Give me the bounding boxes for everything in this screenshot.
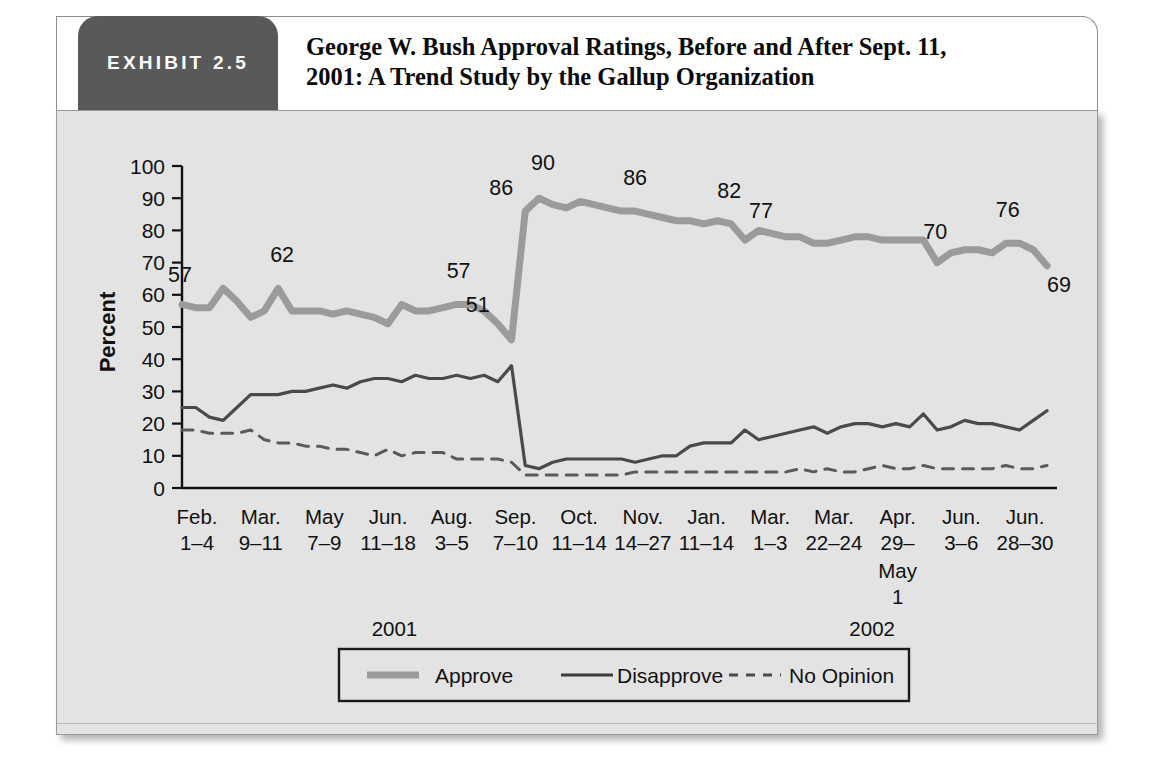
exhibit-title-line-1: George W. Bush Approval Ratings, Before … bbox=[306, 32, 1076, 62]
x-tick-days: 7–10 bbox=[493, 531, 539, 554]
exhibit-title: George W. Bush Approval Ratings, Before … bbox=[306, 32, 1076, 92]
panel-divider-rule bbox=[57, 723, 1099, 724]
x-axis-tick-labels: Feb.1–4Mar.9–11May7–9Jun.11–18Aug.3–5Sep… bbox=[176, 505, 1053, 608]
x-tick-month: Jun. bbox=[369, 505, 408, 528]
data-point-labels: 576257518690868277707669 bbox=[168, 151, 1071, 317]
legend-label: Approve bbox=[435, 664, 513, 687]
x-tick-month: Apr. bbox=[879, 505, 915, 528]
y-tick-label: 70 bbox=[142, 251, 165, 274]
x-tick-days: 9–11 bbox=[239, 531, 283, 554]
y-tick-label: 50 bbox=[142, 316, 165, 339]
x-tick-days: 11–14 bbox=[679, 531, 734, 554]
y-tick-label: 60 bbox=[142, 283, 165, 306]
data-point-label: 90 bbox=[531, 151, 555, 175]
data-point-label: 69 bbox=[1047, 273, 1071, 297]
y-tick-label: 30 bbox=[142, 380, 165, 403]
series-line-disapprove bbox=[182, 366, 1047, 469]
chart-panel: 0102030405060708090100 Percent 576257518… bbox=[56, 110, 1098, 735]
chart-series bbox=[182, 198, 1047, 475]
x-tick-month: May bbox=[305, 505, 344, 528]
legend-label: No Opinion bbox=[789, 664, 894, 687]
y-tick-label: 40 bbox=[142, 348, 165, 371]
plot-area: 0102030405060708090100 Percent 576257518… bbox=[57, 111, 1099, 736]
exhibit-title-line-2: 2001: A Trend Study by the Gallup Organi… bbox=[306, 62, 1076, 92]
y-tick-label: 0 bbox=[153, 477, 165, 500]
x-tick-month: Aug. bbox=[431, 505, 473, 528]
x-tick-days: 22–24 bbox=[805, 531, 862, 554]
data-point-label: 76 bbox=[996, 198, 1020, 222]
exhibit-header: EXHIBIT 2.5 George W. Bush Approval Rati… bbox=[56, 16, 1098, 110]
legend-label: Disapprove bbox=[617, 664, 723, 687]
x-tick-month: Feb. bbox=[176, 505, 217, 528]
x-tick-month: Mar. bbox=[814, 505, 854, 528]
x-tick-days: 11–14 bbox=[551, 531, 606, 554]
x-tick-days: 3–6 bbox=[944, 531, 978, 554]
chart-legend: ApproveDisapproveNo Opinion bbox=[339, 649, 909, 701]
x-tick-days-cont: 1 bbox=[892, 585, 903, 608]
series-line-approve bbox=[182, 198, 1047, 340]
x-axis-year-label: 2002 bbox=[849, 617, 895, 640]
x-tick-days: 1–4 bbox=[180, 531, 214, 554]
data-point-label: 51 bbox=[466, 293, 490, 317]
x-tick-month: Jan. bbox=[687, 505, 726, 528]
y-axis-title: Percent bbox=[95, 291, 120, 372]
x-tick-days: 29– bbox=[881, 531, 916, 554]
y-tick-label: 80 bbox=[142, 219, 165, 242]
x-tick-month: Mar. bbox=[241, 505, 281, 528]
y-tick-label: 90 bbox=[142, 187, 165, 210]
series-line-no-opinion bbox=[182, 430, 1047, 475]
x-tick-days: 11–18 bbox=[360, 531, 415, 554]
x-tick-month: Sep. bbox=[494, 505, 536, 528]
data-point-label: 77 bbox=[749, 199, 773, 223]
exhibit-badge: EXHIBIT 2.5 bbox=[78, 16, 278, 110]
data-point-label: 86 bbox=[489, 176, 513, 200]
x-tick-days: 28–30 bbox=[996, 531, 1053, 554]
data-point-label: 70 bbox=[923, 220, 947, 244]
x-tick-days: 7–9 bbox=[307, 531, 341, 554]
x-tick-month: Mar. bbox=[750, 505, 790, 528]
trend-line-chart: 0102030405060708090100 Percent 576257518… bbox=[57, 111, 1099, 736]
x-tick-month: Jun. bbox=[1006, 505, 1045, 528]
x-tick-days: 1–3 bbox=[753, 531, 787, 554]
x-tick-days: 14–27 bbox=[614, 531, 671, 554]
y-axis-title-text: Percent bbox=[95, 291, 120, 372]
x-tick-days-cont: May bbox=[878, 559, 917, 582]
x-tick-month: Nov. bbox=[623, 505, 664, 528]
y-tick-label: 20 bbox=[142, 412, 165, 435]
x-tick-month: Oct. bbox=[560, 505, 598, 528]
data-point-label: 82 bbox=[717, 179, 741, 203]
data-point-label: 57 bbox=[168, 263, 192, 287]
x-tick-days: 3–5 bbox=[435, 531, 469, 554]
chart-axes bbox=[172, 166, 1057, 488]
data-point-label: 57 bbox=[447, 259, 471, 283]
y-tick-label: 10 bbox=[142, 444, 165, 467]
x-axis-year-labels: 20012002 bbox=[372, 617, 895, 640]
x-axis-year-label: 2001 bbox=[372, 617, 418, 640]
y-tick-label: 100 bbox=[130, 155, 165, 178]
data-point-label: 86 bbox=[623, 166, 647, 190]
exhibit-badge-label: EXHIBIT 2.5 bbox=[107, 52, 249, 74]
data-point-label: 62 bbox=[270, 243, 294, 267]
y-axis-tick-labels: 0102030405060708090100 bbox=[130, 155, 165, 500]
x-tick-month: Jun. bbox=[942, 505, 981, 528]
